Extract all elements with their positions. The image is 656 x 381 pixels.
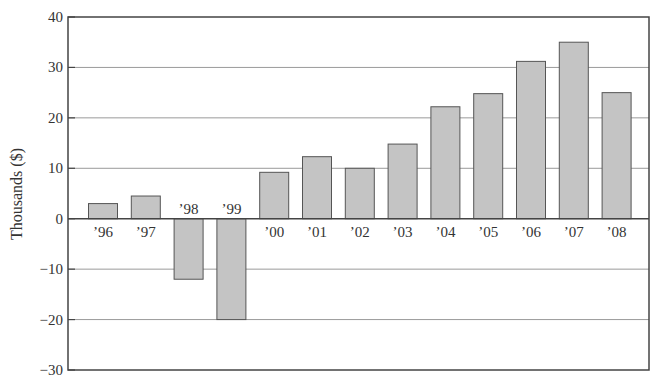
y-tick-label: 20 — [48, 110, 63, 126]
y-tick-label: 0 — [56, 211, 64, 227]
bar — [131, 196, 160, 219]
category-label: ’99 — [221, 201, 241, 217]
y-axis-label: Thousands ($) — [8, 148, 26, 240]
y-axis-ticks: 403020100−10−20−30 — [40, 9, 75, 378]
category-label: ’01 — [307, 224, 327, 240]
bar — [388, 144, 417, 219]
category-label: ’02 — [350, 224, 370, 240]
bar — [474, 94, 503, 219]
bar — [602, 93, 631, 219]
category-label: ’03 — [393, 224, 413, 240]
y-tick-label: 10 — [48, 160, 63, 176]
bar — [345, 168, 374, 218]
y-tick-label: −10 — [40, 261, 63, 277]
bar — [174, 219, 203, 280]
bar — [260, 172, 289, 218]
y-tick-label: 30 — [48, 59, 63, 75]
bar — [89, 204, 118, 219]
category-label: ’00 — [264, 224, 284, 240]
category-label: ’98 — [179, 201, 199, 217]
bar — [217, 219, 246, 320]
category-label: ’08 — [607, 224, 627, 240]
category-label: ’05 — [478, 224, 498, 240]
y-tick-label: 40 — [48, 9, 63, 25]
y-tick-label: −30 — [40, 362, 63, 378]
bar — [303, 157, 332, 219]
bar — [559, 42, 588, 219]
y-tick-label: −20 — [40, 312, 63, 328]
bar — [517, 61, 546, 218]
bars — [89, 42, 632, 319]
category-label: ’07 — [564, 224, 584, 240]
bar — [431, 107, 460, 219]
category-label: ’97 — [136, 224, 156, 240]
category-label: ’04 — [435, 224, 455, 240]
category-label: ’06 — [521, 224, 541, 240]
category-label: ’96 — [93, 224, 113, 240]
bar-chart: 403020100−10−20−30 ’96’97’98’99’00’01’02… — [0, 0, 656, 381]
